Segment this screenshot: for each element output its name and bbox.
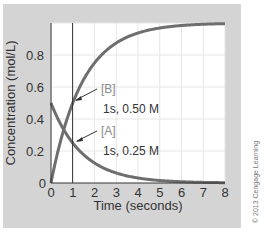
y-tick-label: 0.2 xyxy=(26,144,44,159)
y-axis-title: Concentration (mol/L) xyxy=(3,41,18,166)
annotation-a-label: [A] xyxy=(101,124,116,138)
chart: 012345678 00.20.40.60.8 Time (seconds) C… xyxy=(0,0,264,232)
plot-area: 012345678 00.20.40.60.8 Time (seconds) C… xyxy=(0,0,264,232)
copyright-notice: © 2013 Cengage Learning xyxy=(252,141,260,223)
annotation-b-value: 1s, 0.50 M xyxy=(103,102,159,116)
x-tick-label: 8 xyxy=(221,185,228,200)
annotation-b-label: [B] xyxy=(101,82,116,96)
x-axis-title: Time (seconds) xyxy=(93,198,182,213)
y-tick-label: 0 xyxy=(39,176,46,191)
annotation-a-value: 1s, 0.25 M xyxy=(103,144,159,158)
y-tick-labels: 00.20.40.60.8 xyxy=(26,48,46,191)
x-tick-label: 0 xyxy=(47,185,54,200)
x-tick-label: 1 xyxy=(69,185,76,200)
y-tick-label: 0.8 xyxy=(26,48,44,63)
y-tick-label: 0.4 xyxy=(26,112,44,127)
y-tick-label: 0.6 xyxy=(26,80,44,95)
x-tick-label: 7 xyxy=(200,185,207,200)
